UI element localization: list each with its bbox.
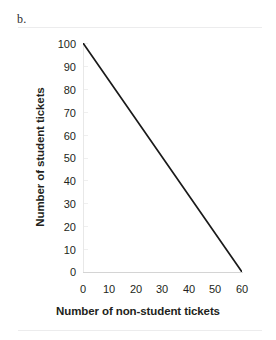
y-tick-label-10: 10 [48,244,76,256]
y-tick-label-20: 20 [48,221,76,233]
y-tick-label-60: 60 [48,130,76,142]
x-axis-title: Number of non-student tickets [0,305,276,317]
x-tick-label-50: 50 [203,283,227,295]
x-tick-label-0: 0 [71,283,95,295]
plot-area [83,43,242,272]
y-axis-title: Number of student tickets [34,57,46,257]
y-tick-label-40: 40 [48,175,76,187]
y-tick-label-70: 70 [48,107,76,119]
x-tick-label-40: 40 [177,283,201,295]
y-tick-label-100: 100 [48,38,76,50]
x-tick-label-30: 30 [150,283,174,295]
y-tick-label-90: 90 [48,61,76,73]
y-tick-label-50: 50 [48,152,76,164]
x-axis-line [83,272,243,273]
y-tick-label-30: 30 [48,198,76,210]
x-tick-label-10: 10 [97,283,121,295]
y-tick-label-80: 80 [48,84,76,96]
series-line-budget-constraint [83,43,242,272]
x-tick-label-20: 20 [124,283,148,295]
x-tick-label-60: 60 [230,283,254,295]
line-chart-figure: 100 90 80 70 60 50 40 30 20 10 0 0 10 20… [0,0,276,340]
y-tick-label-0: 0 [48,266,76,278]
